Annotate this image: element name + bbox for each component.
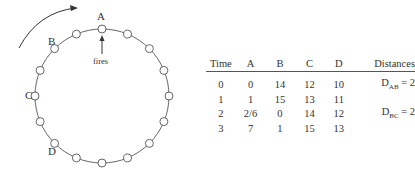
cell-distance: DAB = 2 bbox=[354, 72, 415, 94]
header-distances: Distances bbox=[354, 58, 415, 72]
cell-distance bbox=[354, 94, 415, 107]
phase-table: Time A B C D Distances 0 0 14 12 10 DAB … bbox=[206, 58, 415, 135]
ring-node bbox=[98, 25, 106, 33]
table-row: 2 2/6 0 14 12 DBC = 2 bbox=[206, 106, 415, 123]
cell-d: 11 bbox=[324, 94, 353, 107]
cell-a: 7 bbox=[236, 123, 266, 136]
ring-node bbox=[145, 139, 153, 147]
cell-d: 10 bbox=[324, 72, 353, 94]
table-row: 0 0 14 12 10 DAB = 2 bbox=[206, 72, 415, 94]
header-time: Time bbox=[206, 58, 236, 72]
header-a: A bbox=[236, 58, 266, 72]
cell-a: 0 bbox=[236, 72, 266, 94]
cell-time: 3 bbox=[206, 123, 236, 136]
cell-a: 2/6 bbox=[236, 106, 266, 123]
ring-node bbox=[72, 154, 80, 162]
cell-distance bbox=[354, 123, 415, 136]
ring-node bbox=[160, 118, 168, 126]
cell-c: 14 bbox=[295, 106, 324, 123]
node-label-d: D bbox=[48, 145, 56, 157]
header-b: B bbox=[265, 58, 294, 72]
cell-c: 13 bbox=[295, 94, 324, 107]
cell-b: 1 bbox=[265, 123, 294, 136]
ring-node bbox=[36, 118, 44, 126]
cell-time: 1 bbox=[206, 94, 236, 107]
node-label-c: C bbox=[25, 89, 32, 101]
cell-a: 1 bbox=[236, 94, 266, 107]
cell-d: 13 bbox=[324, 123, 353, 136]
cell-b: 14 bbox=[265, 72, 294, 94]
oscillator-ring-diagram bbox=[0, 0, 200, 174]
cell-distance: DBC = 2 bbox=[354, 106, 415, 123]
ring-node bbox=[165, 92, 173, 100]
cell-b: 15 bbox=[265, 94, 294, 107]
cell-b: 0 bbox=[265, 106, 294, 123]
node-label-b: B bbox=[48, 35, 55, 47]
cell-c: 12 bbox=[295, 72, 324, 94]
ring-node bbox=[145, 45, 153, 53]
ring-node bbox=[124, 30, 132, 38]
ring-node bbox=[36, 66, 44, 74]
cell-c: 15 bbox=[295, 123, 324, 136]
fires-label: fires bbox=[93, 56, 108, 66]
table-row: 3 7 1 15 13 bbox=[206, 123, 415, 136]
cell-time: 0 bbox=[206, 72, 236, 94]
header-d: D bbox=[324, 58, 353, 72]
table-row: 1 1 15 13 11 bbox=[206, 94, 415, 107]
cell-d: 12 bbox=[324, 106, 353, 123]
header-c: C bbox=[295, 58, 324, 72]
node-label-a: A bbox=[97, 10, 105, 22]
rotation-arrowhead-icon bbox=[70, 5, 78, 11]
ring-node bbox=[72, 30, 80, 38]
ring-node bbox=[124, 154, 132, 162]
cell-time: 2 bbox=[206, 106, 236, 123]
ring-node bbox=[160, 66, 168, 74]
ring-node bbox=[98, 159, 106, 167]
